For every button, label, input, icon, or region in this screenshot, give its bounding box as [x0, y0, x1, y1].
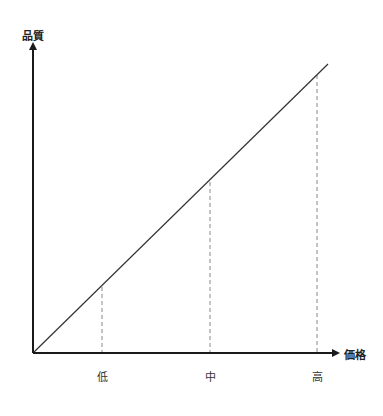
tick-label-low: 低 [97, 368, 108, 384]
y-axis-label: 品質 [22, 27, 44, 43]
tick-label-high: 高 [312, 368, 323, 384]
x-axis-label: 価格 [344, 346, 366, 362]
tick-label-mid: 中 [205, 368, 216, 384]
price-quality-line [33, 64, 328, 353]
price-quality-diagram [0, 0, 383, 416]
